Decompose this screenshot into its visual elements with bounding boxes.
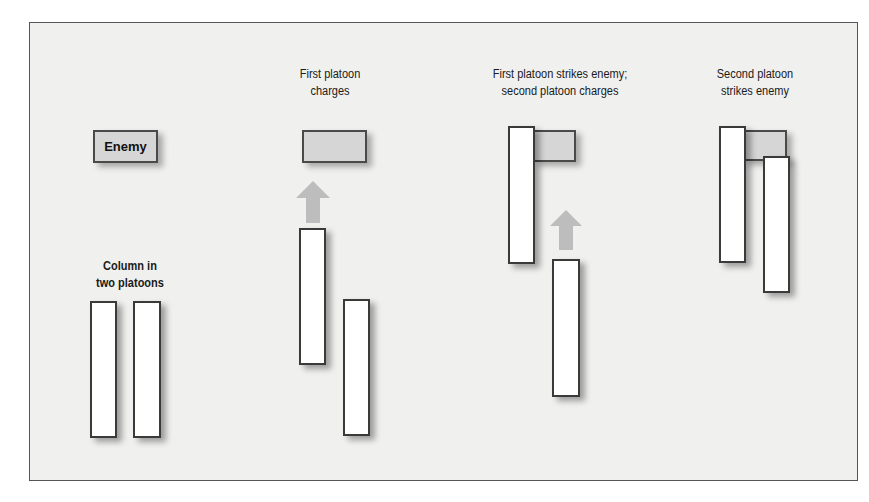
- enemy-label: Enemy: [104, 139, 147, 154]
- arrow-up-icon: [550, 210, 582, 250]
- panel-4-caption: Second platoon strikes enemy: [689, 66, 821, 100]
- first-platoon-block: [508, 126, 535, 264]
- first-platoon-block: [299, 228, 326, 365]
- second-platoon-block: [552, 259, 580, 397]
- enemy-block: [302, 130, 367, 163]
- first-platoon-block: [719, 126, 746, 263]
- panel-2-caption: First platoon charges: [264, 66, 396, 100]
- second-platoon-block: [763, 156, 790, 293]
- first-platoon-block: [90, 301, 117, 438]
- panel-1-caption: Column in two platoons: [68, 258, 191, 292]
- second-platoon-block: [133, 301, 161, 438]
- arrow-up-icon: [296, 181, 330, 223]
- enemy-block: [533, 130, 576, 162]
- panel-3-caption: First platoon strikes enemy; second plat…: [468, 66, 653, 100]
- second-platoon-block: [343, 299, 370, 436]
- enemy-block: Enemy: [93, 130, 158, 163]
